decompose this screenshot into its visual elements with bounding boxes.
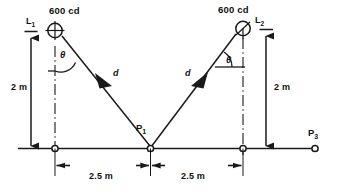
lamp-label-l1-subscript: 1 bbox=[32, 21, 36, 28]
right-ray-d bbox=[151, 34, 236, 147]
lamp-symbol-l1-group bbox=[46, 21, 65, 40]
left-angle-arc-group bbox=[48, 63, 76, 73]
point-label-p1-subscript: 1 bbox=[142, 128, 146, 135]
right-height-dimension bbox=[260, 30, 274, 147]
distance-label-left: d bbox=[113, 69, 119, 78]
point-label-p1: P1 bbox=[136, 123, 146, 135]
intensity-label-left: 600 cd bbox=[49, 6, 80, 16]
right-ray-group bbox=[151, 34, 236, 147]
intensity-label-right: 600 cd bbox=[218, 5, 249, 15]
lamp-label-l1: L1 bbox=[26, 17, 35, 28]
angle-label-left: θ bbox=[60, 50, 65, 60]
height-label-right: 2 m bbox=[274, 83, 290, 92]
node-p3 bbox=[312, 145, 318, 151]
height-label-left: 2 m bbox=[11, 83, 27, 92]
span-label-right: 2.5 m bbox=[181, 172, 205, 181]
span-label-left: 2.5 m bbox=[89, 172, 113, 181]
angle-label-right: θ bbox=[226, 55, 231, 65]
point-label-p3-subscript: 3 bbox=[314, 133, 318, 140]
diagram-svg bbox=[0, 0, 343, 192]
point-label-p3: P3 bbox=[308, 128, 318, 140]
right-ray-arrowhead bbox=[191, 72, 208, 89]
left-angle-arc bbox=[55, 63, 76, 73]
figure-canvas: 600 cd 600 cd L1 L2 θ θ d d 2 m 2 m P1 P… bbox=[0, 0, 343, 192]
lamp-symbol-l2-group bbox=[236, 21, 250, 39]
left-ray-arrowhead bbox=[95, 73, 112, 89]
lamp-label-l2-subscript: 2 bbox=[261, 20, 265, 27]
lamp-label-l2: L2 bbox=[255, 16, 264, 27]
distance-label-right: d bbox=[185, 69, 191, 78]
